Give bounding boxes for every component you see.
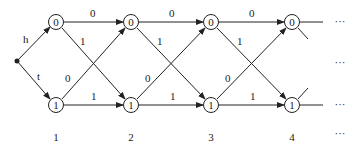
column-label: 2: [128, 131, 134, 143]
edge-label-0-0: 0: [90, 7, 96, 19]
edge-start-t: [17, 61, 50, 99]
edge-label-h: h: [23, 33, 29, 45]
state-label-top: 0: [289, 16, 295, 28]
state-label-bottom: 1: [289, 99, 295, 111]
trellis-svg: h t 0 1 0 1 0 1 0 1 0 1 0 1: [0, 0, 363, 151]
edge-label-1-0: 0: [65, 72, 71, 84]
edge-label-1-0: 0: [145, 72, 151, 84]
column-3: 0 1 3: [204, 15, 219, 144]
column-4: 0 1 4: [285, 15, 300, 144]
state-label-bottom: 1: [53, 99, 59, 111]
edge-label-0-1: 1: [237, 35, 243, 47]
edge-label-1-1: 1: [250, 90, 256, 102]
transition-2-3: 0 1 0 1: [137, 7, 205, 105]
state-label-top: 0: [128, 16, 134, 28]
column-label: 3: [208, 131, 214, 143]
edge-label-0-0: 0: [249, 7, 255, 19]
column-label: 4: [289, 131, 295, 143]
column-1: 0 1 1: [49, 15, 64, 144]
ellipsis-middle: ···: [335, 56, 346, 68]
ellipsis-bottom: ···: [335, 98, 346, 110]
edge-label-1-0: 0: [225, 72, 231, 84]
edge-start-h: [17, 27, 50, 61]
edge-label-0-1: 1: [157, 35, 163, 47]
edge-label-0-0: 0: [169, 7, 175, 19]
transition-3-4: 0 1 0 1: [217, 7, 286, 105]
trailing-stubs: [298, 22, 323, 105]
edge-label-t: t: [37, 70, 40, 82]
column-label: 1: [53, 131, 59, 143]
ellipsis-labels: ···: [335, 127, 346, 139]
state-label-bottom: 1: [128, 99, 134, 111]
state-label-top: 0: [53, 16, 59, 28]
state-label-bottom: 1: [208, 99, 214, 111]
edge-label-0-1: 1: [80, 35, 86, 47]
state-label-top: 0: [208, 16, 214, 28]
edge-label-1-1: 1: [91, 90, 97, 102]
column-2: 0 1 2: [124, 15, 139, 144]
transition-1-2: 0 1 0 1: [62, 7, 125, 105]
ellipsis-top: ···: [335, 15, 346, 27]
edge-label-1-1: 1: [170, 90, 176, 102]
trellis-diagram: h t 0 1 0 1 0 1 0 1 0 1 0 1: [0, 0, 363, 151]
